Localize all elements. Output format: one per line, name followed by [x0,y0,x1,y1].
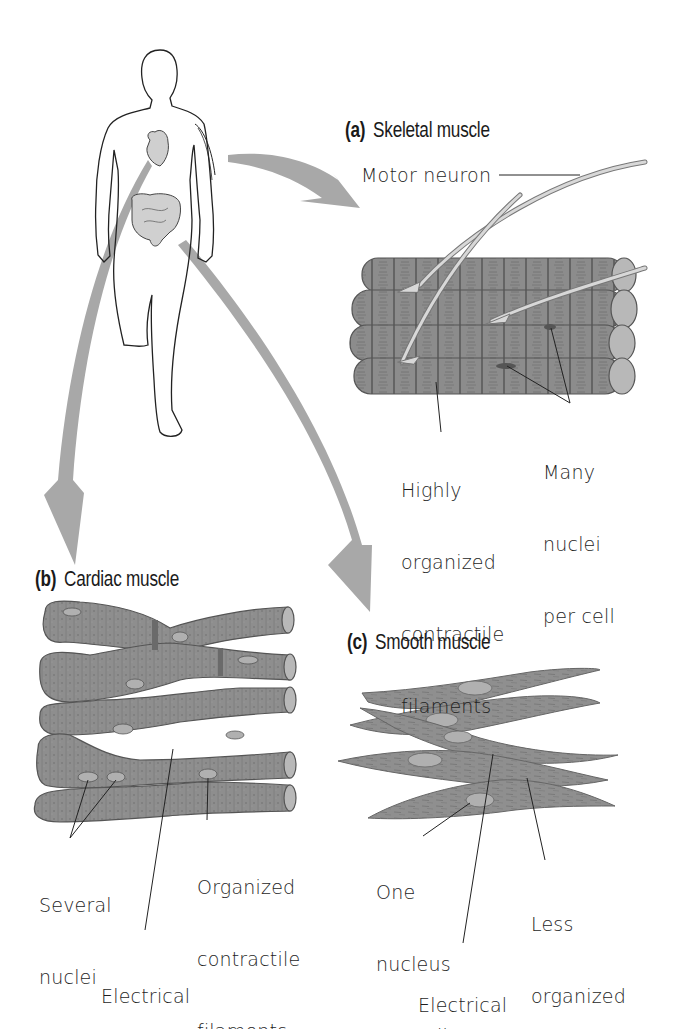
cardiac-filaments-label: Organized contractile filaments [197,827,300,1029]
cardiac-muscle-title: (b)Cardiac muscle [35,566,179,592]
skeletal-nuclei-label: Many nuclei per cell [543,412,615,676]
skeletal-muscle-title: (a)Skeletal muscle [345,117,490,143]
label-line: Highly [401,478,504,502]
label-line: Organized [197,875,300,899]
label-line: filaments [197,1019,300,1029]
arrow-to-skeletal [228,154,360,208]
skeletal-muscle-illustration [350,258,637,394]
label-line: filaments [401,694,504,718]
label-line: One [376,880,451,904]
label-line: contractile [401,622,504,646]
cardiac-title-text: Cardiac muscle [64,566,179,591]
label-line: organized [401,550,504,574]
label-line: Electrical [101,984,208,1008]
motor-neuron-label: Motor neuron [361,163,491,187]
cardiac-muscle-illustration [34,601,296,822]
skeletal-filaments-label: Highly organized contractile filaments [401,430,504,766]
muscle-types-diagram: (a)Skeletal muscle (b)Cardiac muscle (c)… [0,0,673,1029]
label-line: nuclei [543,532,615,556]
skeletal-title-text: Skeletal muscle [373,117,490,142]
cardiac-connection-label: Electrical connection [101,936,208,1029]
label-line: Several [39,893,112,917]
cardiac-tag: (b) [35,566,56,591]
arrow-to-smooth [178,240,372,612]
smooth-connection-label: Electrical connection [418,945,525,1029]
skeletal-tag: (a) [345,117,365,142]
label-line: per cell [543,604,615,628]
intestines-icon [132,194,181,246]
label-line: Many [543,460,615,484]
smooth-tag: (c) [347,629,367,654]
label-line: organized [531,984,634,1008]
label-line: Less [531,912,634,936]
smooth-filaments-label: Less organized contractile filaments [531,864,634,1029]
label-line: contractile [197,947,300,971]
heart-icon [147,130,169,166]
label-line: Electrical [418,993,525,1017]
